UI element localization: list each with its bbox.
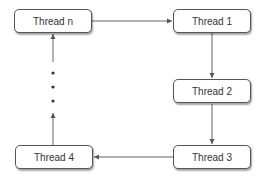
node-thread-2: Thread 2 [173,79,251,103]
node-label: Thread 3 [192,152,232,163]
node-thread-n: Thread n [14,9,92,33]
node-label: Thread 2 [192,86,232,97]
node-label: Thread 4 [34,152,74,163]
node-label: Thread n [33,16,73,27]
node-thread-4: Thread 4 [15,145,93,169]
ellipsis-dots [51,71,54,102]
node-label: Thread 1 [192,16,232,27]
node-thread-1: Thread 1 [173,9,251,33]
node-thread-3: Thread 3 [173,145,251,169]
